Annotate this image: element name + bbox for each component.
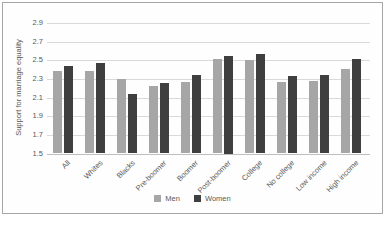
x-axis-line [47,154,370,155]
y-tick-label: 1.5 [13,150,43,158]
gridline [47,60,370,61]
y-tick-label: 2.3 [13,75,43,83]
category-label-post-boomer: Post-boomer [196,159,232,195]
gridline [47,42,370,43]
legend: MenWomen [3,194,382,203]
category-label-all: All [61,159,73,171]
bar-women-pre-boomer [160,83,169,154]
category-label-pre-boomer: Pre-boomer [135,159,169,193]
y-tick-label: 2.5 [13,56,43,64]
bar-men-whites [85,71,94,154]
legend-label-women: Women [205,194,231,203]
legend-item-men: Men [154,194,180,203]
bar-men-post-boomer [213,59,222,153]
bar-women-high-income [352,59,361,153]
chart-canvas: Support for marriage equality MenWomen 1… [0,0,387,225]
category-label-whites: Whites [83,159,105,181]
bar-women-no-college [288,76,297,153]
y-axis-title: Support for marriage equality [14,13,23,163]
bar-men-all [53,71,62,153]
legend-item-women: Women [194,194,231,203]
y-tick-label: 2.1 [13,94,43,102]
bar-men-high-income [341,69,350,154]
bar-women-boomer [192,75,201,153]
bar-women-post-boomer [224,56,233,154]
chart-frame: Support for marriage equality MenWomen 1… [2,2,383,214]
bar-men-pre-boomer [149,86,158,153]
category-label-college: College [241,159,265,183]
legend-swatch-women [194,195,201,202]
y-tick-label: 1.7 [13,131,43,139]
bar-men-boomer [181,82,190,154]
legend-swatch-men [154,195,161,202]
category-label-blacks: Blacks [115,159,136,180]
bar-men-low-income [309,81,318,154]
bar-men-blacks [117,79,126,154]
bar-men-no-college [277,82,286,154]
bar-women-whites [96,63,105,153]
legend-label-men: Men [165,194,180,203]
category-label-high-income: High income [325,159,360,194]
bar-women-blacks [128,94,137,154]
category-label-no-college: No college [266,159,297,190]
bar-women-all [64,66,73,154]
y-tick-label: 1.9 [13,112,43,120]
category-label-boomer: Boomer [176,159,200,183]
y-tick-label: 2.9 [13,19,43,27]
gridline [47,23,370,24]
y-tick-label: 2.7 [13,38,43,46]
bar-women-low-income [320,75,329,153]
bar-men-college [245,60,254,153]
bar-women-college [256,54,265,154]
category-label-low-income: Low income [294,159,328,193]
